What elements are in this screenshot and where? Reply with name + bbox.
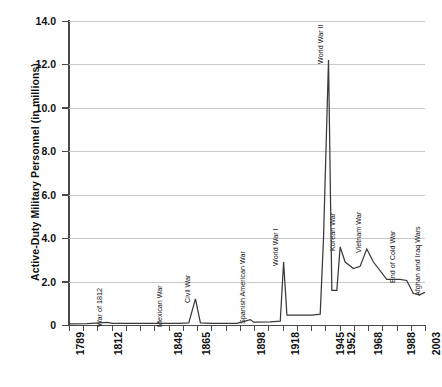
chart-container: Active-Duty Military Personnel (in milli… <box>0 0 442 387</box>
data-line-series <box>0 0 442 387</box>
